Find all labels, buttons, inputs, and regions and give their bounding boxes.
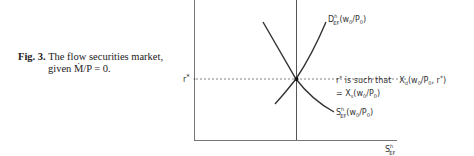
r-star-note-line1: r* is such thatXd(w0/P0, r*) (336, 74, 446, 86)
r-star-note-line2: = Xs(w0/P0) (336, 89, 380, 99)
r-star-tick (194, 78, 196, 80)
demand-curve-label: DhEF(w0/P0) (328, 13, 366, 26)
equilibrium-point (295, 77, 299, 81)
supply-curve-label: ShEF(w0/P0) (336, 106, 373, 119)
demand-curve (275, 22, 326, 104)
supply-curve (263, 22, 334, 112)
supply-demand-diagram: r* DhEF(w0/P0) r* is such thatXd(w0/P0, … (0, 0, 474, 156)
r-star-label: r* (183, 73, 190, 84)
x-axis-label: ShEF (385, 143, 395, 156)
